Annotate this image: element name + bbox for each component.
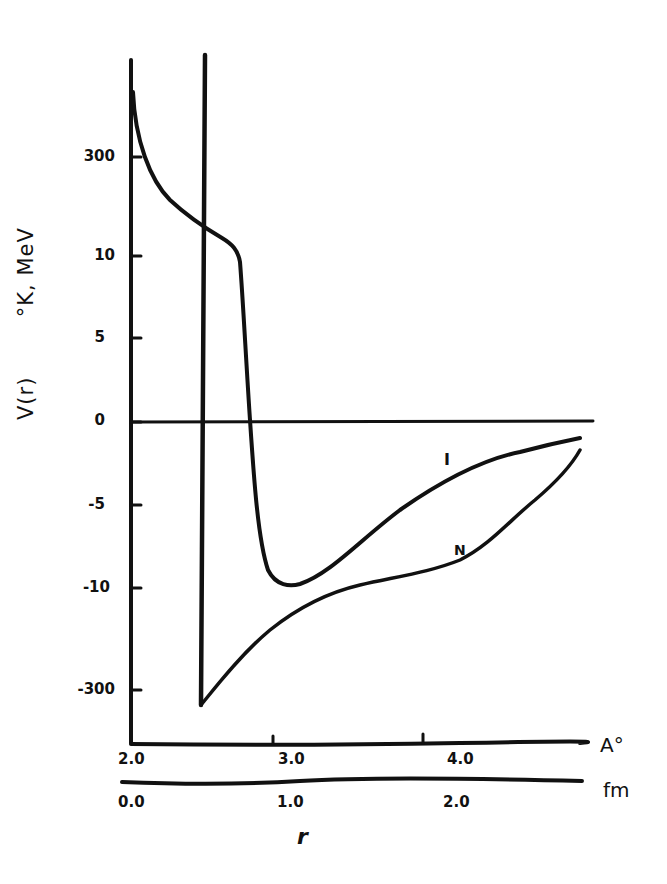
x-axis-angstrom xyxy=(131,742,588,745)
y-axis-units: °K, MeV xyxy=(14,227,38,317)
curve-label-I: I xyxy=(444,452,450,468)
y-tick-label: 5 xyxy=(45,330,105,345)
curve-label-N: N xyxy=(454,543,466,557)
y-tick-label: -5 xyxy=(45,497,105,512)
x-axis-title: r xyxy=(297,826,308,848)
potential-chart xyxy=(0,0,667,884)
zero-line xyxy=(131,421,593,422)
x-tick-label-angstrom: 2.0 xyxy=(118,752,145,767)
x-tick-label-fm: 1.0 xyxy=(277,795,304,810)
y-tick-label: -300 xyxy=(55,682,115,697)
unit-fm: fm xyxy=(603,780,630,800)
y-tick-label: 300 xyxy=(55,149,115,164)
curve-N xyxy=(201,450,580,705)
y-tick-label: 10 xyxy=(55,248,115,263)
x-tick-label-angstrom: 3.0 xyxy=(278,752,305,767)
x-tick-label-angstrom: 4.0 xyxy=(447,752,474,767)
unit-angstrom: A° xyxy=(600,735,624,755)
y-axis-title-text: V(r) xyxy=(14,377,38,420)
y-tick-label: -10 xyxy=(50,580,110,595)
x-tick-label-fm: 0.0 xyxy=(118,795,145,810)
y-axis-title: V(r) °K, MeV xyxy=(14,227,38,420)
x-tick-label-fm: 2.0 xyxy=(443,795,470,810)
y-tick-label: 0 xyxy=(45,413,105,428)
hard-core-line xyxy=(201,55,205,705)
x-axis-fm xyxy=(122,779,582,784)
